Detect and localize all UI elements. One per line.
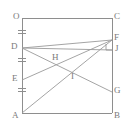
segment-DF xyxy=(22,40,112,48)
geometry-figure: O C D F J E H I G A B xyxy=(0,0,128,132)
internal-segments xyxy=(22,40,112,113)
point-label-J: J xyxy=(115,44,119,53)
point-label-O: O xyxy=(13,12,20,21)
point-label-D: D xyxy=(11,42,18,51)
point-label-C: C xyxy=(114,12,120,21)
point-label-I: I xyxy=(71,72,74,81)
point-label-E: E xyxy=(12,74,18,83)
point-label-H: H xyxy=(52,53,59,62)
point-label-G: G xyxy=(114,86,121,95)
segment-AF xyxy=(22,40,112,113)
segment-EF xyxy=(22,40,112,80)
point-label-F: F xyxy=(114,33,119,42)
segment-DG xyxy=(22,48,112,92)
segment-DJ xyxy=(22,48,112,50)
right-angle-at-J xyxy=(106,44,112,50)
point-label-A: A xyxy=(12,111,19,120)
point-label-B: B xyxy=(114,111,120,120)
right-angle-square-icon xyxy=(106,44,112,50)
rectangle-outline xyxy=(22,18,112,113)
